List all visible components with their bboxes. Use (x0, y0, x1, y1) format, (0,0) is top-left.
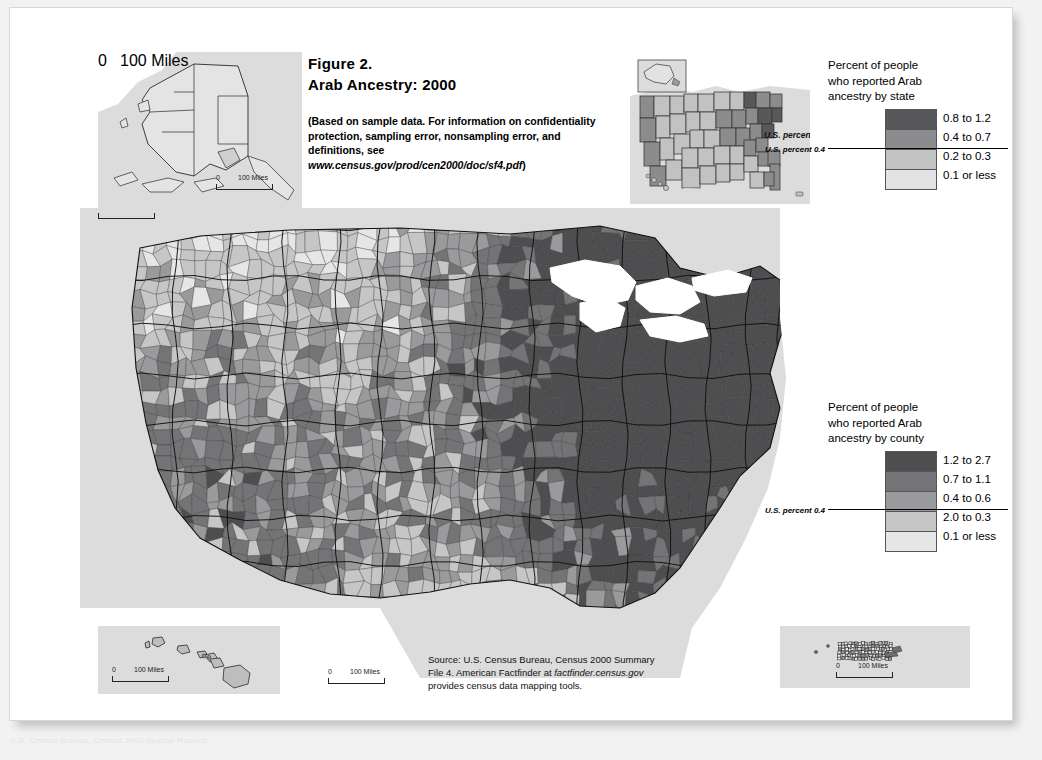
scalebar-hawaii-distance: 100 Miles (134, 666, 164, 673)
state-overview-polygon (730, 164, 744, 180)
county-polygon (433, 288, 449, 307)
county-polygon (447, 233, 461, 249)
pr-county-polygon (851, 648, 854, 651)
pr-county-polygon (879, 641, 882, 644)
county-polygon (247, 259, 262, 279)
legend-state-us-rule: U.S. percent 0.4 (828, 148, 1008, 149)
state-overview-polygon (744, 92, 756, 108)
state-overview-polygon (764, 172, 774, 186)
inset-puerto-rico: 0 100 Miles (780, 626, 970, 688)
legend-state-title-2: who reported Arab (828, 74, 1013, 90)
legend-state-label-1: 0.4 to 0.7 (943, 128, 996, 147)
county-polygon (423, 344, 438, 357)
state-overview-polygon (686, 112, 700, 132)
source-line-3: provides census data mapping tools. (428, 679, 698, 692)
state-overview-polygon (758, 108, 772, 124)
state-overview-polygon (720, 128, 736, 146)
state-overview-polygon (772, 108, 782, 122)
legend-state-swatch-0 (886, 110, 936, 130)
pr-county-polygon (861, 654, 864, 657)
state-overview-polygon (714, 92, 730, 110)
pr-county-polygon (889, 644, 892, 647)
state-overview-polygon (666, 160, 682, 180)
state-overview-polygon (730, 92, 744, 110)
county-polygon (319, 411, 336, 434)
pr-county-polygon (854, 657, 857, 660)
legend-county-swatches (885, 451, 937, 552)
state-overview-polygon (682, 168, 700, 188)
pr-county-polygon (872, 658, 875, 661)
source-line-2-url: factfinder.census.gov (554, 667, 643, 678)
county-polygon (535, 290, 555, 306)
county-polygon (296, 232, 306, 254)
state-overview-polygon (714, 146, 730, 164)
state-overview-polygon (640, 96, 654, 118)
legend-state-swatch-2 (886, 150, 936, 170)
state-overview-alaska (638, 60, 686, 92)
state-overview-polygon (700, 112, 716, 130)
pr-county-polygon (838, 642, 841, 645)
county-polygon (755, 397, 772, 420)
pr-county-polygon (848, 657, 851, 660)
figure-title: Arab Ancestry: 2000 (308, 74, 608, 95)
pr-county-polygon (862, 657, 865, 660)
pr-county-polygon (865, 654, 868, 657)
county-polygon (331, 308, 352, 323)
county-polygon (243, 359, 261, 374)
pr-county-polygon (848, 645, 851, 648)
state-overview-puerto-rico (796, 192, 803, 196)
pr-county-polygon (838, 651, 841, 654)
pr-county-polygon (868, 651, 871, 654)
state-overview-polygon (730, 146, 744, 164)
legend-state-label-0: 0.8 to 1.2 (943, 109, 996, 128)
figure-note-url: www.census.gov/prod/cen2000/doc/sf4.pdf (308, 159, 522, 171)
pr-county-polygon (852, 654, 855, 657)
legend-state-swatches (885, 109, 937, 190)
county-polygon (576, 431, 593, 445)
county-polygon (561, 502, 576, 515)
pr-county-polygon (842, 653, 845, 656)
scalebar-mainland: 0 100 Miles (328, 668, 385, 684)
pr-county-polygon (882, 656, 885, 659)
county-polygon (155, 445, 171, 456)
county-polygon (451, 497, 461, 508)
scalebar-hawaii-zero: 0 (112, 666, 116, 673)
pr-county-polygon (865, 657, 868, 660)
pr-county-polygon (844, 642, 847, 645)
legend-state-title-3: ancestry by state (828, 89, 1013, 105)
legend-county-swatch-1 (886, 472, 936, 492)
state-overview-us-percent-label: U.S. percent (764, 130, 810, 140)
pr-county-polygon (875, 651, 878, 654)
state-overview-polygon (654, 96, 670, 116)
legend-state-label-2: 0.2 to 0.3 (943, 147, 996, 166)
inset-hawaii: 0 100 Miles (98, 626, 280, 694)
state-overview-polygon (770, 94, 782, 108)
pr-county-polygon (858, 657, 861, 660)
legend-state-labels: 0.8 to 1.20.4 to 0.70.2 to 0.30.1 or les… (943, 109, 996, 185)
pr-county-polygon (886, 648, 889, 651)
pr-county-polygon (872, 645, 875, 648)
pr-county-polygon (885, 658, 888, 661)
pr-county-polygon (882, 647, 885, 650)
scalebar-mainland-bar (328, 678, 385, 684)
scalebar-mainland-distance: 100 Miles (350, 668, 380, 675)
source-line-2-prefix: File 4. American Factfinder at (428, 667, 554, 678)
legend-state-title-1: Percent of people (828, 58, 1013, 74)
pr-county-polygon (878, 654, 881, 657)
legend-state-label-3: 0.1 or less (943, 166, 996, 185)
scalebar-pr-bar (836, 672, 893, 678)
legend-state-swatch-3 (886, 170, 936, 189)
pr-county-polygon (878, 657, 881, 660)
figure-note-prefix: (Based on sample data. For information o… (308, 115, 596, 156)
pr-county-polygon (838, 657, 841, 660)
county-polygon (445, 414, 460, 430)
state-overview-polygon (698, 94, 714, 112)
pr-county-polygon (845, 648, 848, 651)
county-polygon (275, 426, 285, 445)
legend-by-county: Percent of people who reported Arab ance… (828, 400, 1013, 549)
scalebar-zero: 0 (98, 52, 107, 70)
legend-county-us-percent-label: U.S. percent 0.4 (765, 505, 825, 514)
county-polygon (401, 473, 414, 481)
figure-page: 0 100 Miles 0 100 Miles (9, 7, 1013, 721)
scalebar-alaska-distance: 100 Miles (238, 174, 268, 181)
